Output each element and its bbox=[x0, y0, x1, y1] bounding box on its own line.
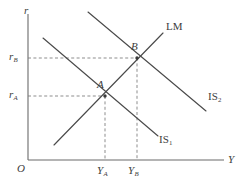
lm-curve bbox=[54, 33, 163, 145]
point-b-label: B bbox=[131, 41, 138, 52]
is2-base: IS bbox=[208, 90, 218, 102]
r-b-tick-label: rB bbox=[9, 51, 17, 62]
axes-group bbox=[28, 14, 224, 160]
point-b-marker bbox=[135, 56, 138, 59]
is2-curve-label: IS2 bbox=[208, 91, 221, 102]
point-a-label: A bbox=[97, 79, 104, 90]
is1-subscript: 1 bbox=[169, 139, 172, 146]
is2-subscript: 2 bbox=[218, 96, 221, 103]
y-a-subscript: A bbox=[103, 170, 107, 177]
origin-label: O bbox=[17, 163, 25, 174]
r-a-base: r bbox=[9, 88, 13, 100]
points-group bbox=[103, 56, 138, 97]
y-b-tick-label: YB bbox=[128, 165, 138, 176]
y-a-tick-label: YA bbox=[97, 165, 107, 176]
r-b-base: r bbox=[9, 50, 13, 62]
x-axis-label: Y bbox=[228, 154, 234, 165]
is1-base: IS bbox=[159, 133, 169, 145]
point-a-marker bbox=[103, 94, 106, 97]
guide-lines-group bbox=[28, 58, 137, 160]
is-lm-diagram: r Y O rB rA YA YB A B LM IS1 IS2 bbox=[0, 0, 242, 188]
y-b-subscript: B bbox=[134, 170, 138, 177]
is1-curve-label: IS1 bbox=[159, 134, 172, 145]
r-a-subscript: A bbox=[14, 94, 18, 101]
r-a-tick-label: rA bbox=[9, 89, 17, 100]
y-axis-label: r bbox=[24, 5, 28, 16]
r-b-subscript: B bbox=[14, 56, 18, 63]
lm-curve-label: LM bbox=[166, 21, 183, 32]
diagram-canvas bbox=[0, 0, 242, 188]
